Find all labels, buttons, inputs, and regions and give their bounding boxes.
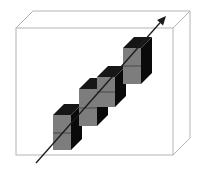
- diagonal-arrow-icon: [36, 16, 166, 163]
- arrow-shaft: [36, 23, 160, 163]
- box-right-edge: [173, 11, 190, 155]
- cube-columns: [53, 37, 152, 150]
- cube-column: [97, 66, 126, 107]
- box-diagram: [0, 0, 202, 172]
